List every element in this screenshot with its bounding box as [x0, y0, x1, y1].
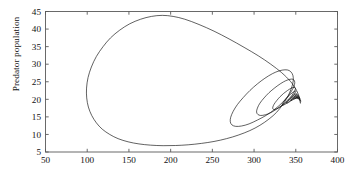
y-tick-label: 25	[32, 77, 42, 87]
y-tick-label: 40	[32, 24, 42, 34]
x-tick-label: 400	[331, 155, 345, 165]
x-tick-label: 50	[41, 155, 51, 165]
x-tick-label: 150	[122, 155, 136, 165]
cropped-caption	[6, 170, 346, 177]
y-tick-label: 45	[32, 7, 42, 17]
x-tick-label: 200	[164, 155, 178, 165]
x-tick-label: 300	[247, 155, 261, 165]
y-tick-label: 15	[32, 112, 42, 122]
y-tick-label: 10	[32, 130, 42, 140]
figure-container: Predator population 50100150200250300350…	[0, 0, 353, 178]
phase-portrait-plot: 50100150200250300350400 5101520253035404…	[0, 0, 353, 178]
y-tick-label: 35	[32, 42, 42, 52]
y-axis-tick-labels: 51015202530354045	[32, 7, 42, 158]
y-tick-label: 20	[32, 95, 42, 105]
axes-frame	[46, 12, 338, 153]
x-tick-label: 350	[289, 155, 303, 165]
x-axis-tick-labels: 50100150200250300350400	[41, 155, 345, 165]
y-tick-label: 30	[32, 59, 42, 69]
y-tick-label: 5	[36, 147, 41, 157]
x-tick-label: 250	[205, 155, 219, 165]
x-tick-label: 100	[80, 155, 94, 165]
